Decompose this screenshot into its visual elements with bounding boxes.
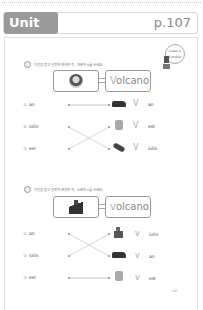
van-icon [112, 252, 126, 258]
section-1-instruction: 다음을 듣고 알맞게 연결한 뒤, 대문자 V를 쓰세요. [34, 62, 103, 67]
section-1-word-card: Volcano [105, 70, 151, 92]
section-2-badge-icon [24, 186, 31, 193]
s2-row-1-right: iolin [149, 232, 158, 237]
character-icon [162, 56, 171, 70]
s1-letter-1: V [133, 99, 138, 108]
s2-right-dot-1[interactable] [108, 233, 110, 235]
violinist-icon [114, 227, 123, 238]
unit-header: Unit 22 p.107 [3, 12, 198, 34]
section-1-picture-card [53, 70, 99, 92]
s1-left-dot-3[interactable] [68, 148, 70, 150]
volcano-icon [69, 74, 83, 88]
page-reference: p.107 [154, 15, 191, 30]
s2-row-2-left: ②iolin [23, 253, 38, 258]
volcano-icon [69, 200, 83, 214]
s1-left-dot-2[interactable] [68, 126, 70, 128]
s2-right-dot-3[interactable] [108, 277, 110, 279]
s2-letter-3: v [135, 273, 140, 282]
s1-row-2-left: ②iolin [23, 124, 38, 129]
section-1-badge-icon [24, 61, 31, 68]
s2-letter-2: v [135, 251, 140, 260]
top-dotted-border [2, 2, 201, 3]
s2-left-dot-1[interactable] [68, 233, 70, 235]
s1-row-2-right: est [148, 124, 155, 129]
s2-row-1-left: ①an [23, 231, 35, 236]
section-2-word-card: volcano [105, 196, 151, 218]
s1-right-dot-2[interactable] [108, 126, 110, 128]
section-2-instruction: 다음을 듣고 알맞게 연결한 뒤, 소문자 v를 쓰세요. [34, 187, 103, 192]
s2-row-2-right: an [149, 254, 155, 259]
s1-right-dot-3[interactable] [108, 148, 110, 150]
s1-row-1-right: an [148, 102, 154, 107]
s2-left-dot-2[interactable] [68, 255, 70, 257]
section-2-picture-card [53, 196, 99, 218]
truck-icon [112, 101, 126, 107]
s2-left-dot-3[interactable] [68, 277, 70, 279]
s1-left-dot-1[interactable] [68, 104, 70, 106]
s2-right-dot-2[interactable] [108, 255, 110, 257]
s2-row-3-right: est [149, 276, 156, 281]
s1-right-dot-1[interactable] [108, 104, 110, 106]
s1-letter-2: V [133, 121, 138, 130]
s1-row-3-left: ③est [23, 146, 36, 151]
page-number: 107 [172, 289, 178, 293]
s2-row-3-left: ③est [23, 275, 36, 280]
vest-icon [115, 271, 123, 281]
vest-icon [115, 120, 123, 130]
s1-row-3-right: iolin [148, 146, 157, 151]
s2-letter-1: v [135, 229, 140, 238]
s1-row-1-left: ①an [23, 102, 35, 107]
s1-letter-3: V [133, 143, 138, 152]
unit-title: Unit 22 [4, 12, 58, 34]
